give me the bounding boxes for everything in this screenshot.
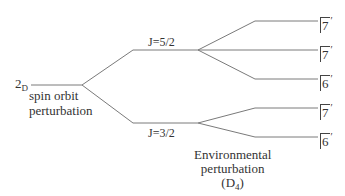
state-label-gamma7-3: 7′ [320, 101, 333, 120]
spin-orbit-label: spin orbit perturbation [29, 88, 93, 118]
state-label-gamma7-2: 7′ [320, 43, 333, 62]
state-label-gamma6-1: 6′ [320, 72, 333, 91]
term-letter: D [22, 83, 29, 93]
group-open: (D [221, 175, 235, 190]
state-symbol: 7 [320, 104, 330, 120]
environment-label-line1: Environmental [194, 148, 271, 162]
environment-label: Environmental perturbation (D4) [194, 148, 271, 194]
state-label-gamma7-1: 7′ [320, 14, 333, 33]
group-close: ) [240, 175, 244, 190]
term-label-2d: 2D [15, 77, 28, 95]
state-prime: ′ [331, 44, 333, 55]
state-symbol: 6 [320, 75, 330, 91]
level-label-j52: J=5/2 [148, 36, 175, 49]
state-symbol: 7 [320, 46, 330, 62]
spin-orbit-label-line1: spin orbit [29, 88, 93, 103]
state-label-gamma6-2: 6′ [320, 130, 333, 149]
state-prime: ′ [331, 15, 333, 26]
state-symbol: 6 [320, 133, 330, 149]
environment-label-line2: perturbation [194, 162, 271, 176]
state-prime: ′ [331, 131, 333, 142]
level-label-j32: J=3/2 [148, 127, 175, 140]
environment-group: (D4) [194, 176, 271, 194]
spin-orbit-label-line2: perturbation [29, 103, 93, 118]
state-prime: ′ [331, 73, 333, 84]
state-symbol: 7 [320, 17, 330, 33]
state-prime: ′ [331, 102, 333, 113]
